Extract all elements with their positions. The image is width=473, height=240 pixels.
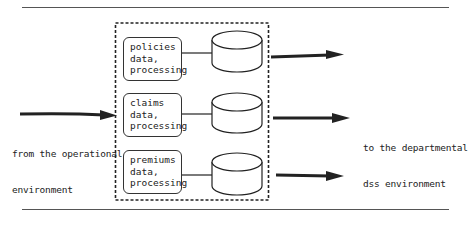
box-line: data, [130,53,181,65]
box-line: claims [130,97,181,109]
outgoing-arrow-2 [273,113,350,123]
target-label-line1: to the departmental [363,142,468,154]
database-cylinder-claims-icon [212,93,262,133]
database-cylinder-premiums-icon [212,153,262,195]
process-box-premiums: premiums data, processing [123,150,182,194]
box-line: processing [130,120,181,132]
outgoing-arrow-3 [276,171,344,181]
box-line: premiums [130,154,181,166]
incoming-arrow [20,110,117,120]
database-cylinder-policies-icon [212,31,262,72]
source-label-line2: environment [12,184,122,196]
source-label-line1: from the operational [12,148,122,160]
box-line: policies [130,41,181,53]
box-line: data, [130,109,181,121]
process-box-claims: claims data, processing [123,93,182,137]
target-label: to the departmental dss environment [363,118,468,202]
target-label-line2: dss environment [363,178,468,190]
outgoing-arrow-1 [271,50,344,59]
box-line: processing [130,64,181,76]
source-label: from the operational environment [12,124,122,208]
process-box-policies: policies data, processing [123,37,182,81]
box-line: processing [130,177,181,189]
box-line: data, [130,166,181,178]
